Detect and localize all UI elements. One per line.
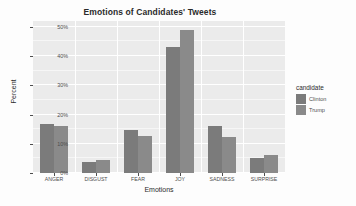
bar-sadness-trump: [222, 137, 236, 173]
legend-item-clinton[interactable]: Clinton: [296, 94, 354, 104]
bar-group-fear: [124, 21, 152, 173]
legend: candidate ClintonTrump: [296, 84, 354, 116]
bar-disgust-trump: [96, 160, 110, 173]
bar-surprise-trump: [264, 155, 278, 173]
x-tick-mark: [138, 173, 139, 176]
legend-swatch-icon: [296, 94, 306, 104]
bar-group-sadness: [208, 21, 236, 173]
y-tick-label: 30%: [42, 82, 68, 88]
x-tick-mark: [96, 173, 97, 176]
x-tick-mark: [264, 173, 265, 176]
chart-container: Emotions of Candidates' Tweets 0%10%20%3…: [0, 0, 356, 206]
bar-joy-clinton: [166, 47, 180, 173]
y-axis-title: Percent: [10, 62, 17, 122]
chart-title: Emotions of Candidates' Tweets: [0, 7, 300, 17]
bar-anger-trump: [54, 126, 68, 173]
bar-disgust-clinton: [82, 162, 96, 173]
y-tick-mark: [30, 144, 33, 145]
legend-item-trump[interactable]: Trump: [296, 105, 354, 115]
y-tick-mark: [30, 56, 33, 57]
x-axis-title: Emotions: [33, 186, 285, 193]
bar-fear-clinton: [124, 130, 138, 173]
legend-title: candidate: [296, 84, 354, 91]
plot-panel: [33, 21, 285, 173]
y-tick-label: 10%: [42, 141, 68, 147]
legend-items: ClintonTrump: [296, 94, 354, 115]
y-tick-mark: [30, 85, 33, 86]
x-tick-mark: [54, 173, 55, 176]
legend-label: Trump: [309, 107, 325, 113]
x-tick-label-surprise: SURPRISE: [239, 176, 289, 182]
bar-sadness-clinton: [208, 126, 222, 173]
bar-anger-clinton: [40, 124, 54, 173]
x-tick-mark: [222, 173, 223, 176]
bar-fear-trump: [138, 136, 152, 173]
bars-layer: [33, 21, 285, 173]
legend-label: Clinton: [309, 96, 326, 102]
x-tick-mark: [180, 173, 181, 176]
y-tick-mark: [30, 173, 33, 174]
bar-surprise-clinton: [250, 158, 264, 173]
y-tick-label: 40%: [42, 53, 68, 59]
bar-group-surprise: [250, 21, 278, 173]
legend-swatch-icon: [296, 105, 306, 115]
bar-group-joy: [166, 21, 194, 173]
bar-group-disgust: [82, 21, 110, 173]
y-tick-mark: [30, 115, 33, 116]
y-tick-mark: [30, 27, 33, 28]
y-tick-label: 20%: [42, 112, 68, 118]
bar-group-anger: [40, 21, 68, 173]
bar-joy-trump: [180, 30, 194, 173]
y-tick-label: 50%: [42, 24, 68, 30]
